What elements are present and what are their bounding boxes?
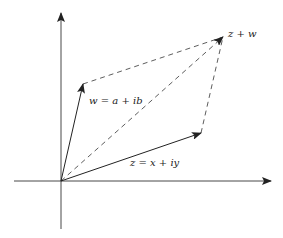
- label-w: w = a + ib: [89, 95, 143, 106]
- label-sum: z + w: [227, 28, 257, 39]
- dashed-side-w-to-sum: [83, 37, 223, 84]
- complex-addition-diagram: z + w w = a + ib z = x + iy: [0, 0, 283, 238]
- dashed-side-z-to-sum: [201, 37, 223, 133]
- label-z: z = x + iy: [129, 157, 180, 168]
- vector-w: [61, 84, 83, 181]
